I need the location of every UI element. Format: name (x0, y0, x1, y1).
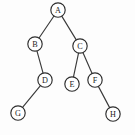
tree-node-f[interactable]: F (88, 73, 102, 87)
tree-node-d[interactable]: D (38, 73, 52, 87)
tree-node-h[interactable]: H (106, 107, 120, 121)
tree-edge-c-f (83, 53, 92, 74)
tree-node-a[interactable]: A (51, 3, 65, 17)
tree-node-circle-e (65, 77, 79, 91)
edge-layer (23, 16, 110, 108)
node-layer: ABCDEFGH (11, 3, 120, 121)
tree-edge-d-g (23, 86, 41, 108)
tree-edge-b-d (37, 51, 43, 73)
tree-node-e[interactable]: E (65, 77, 79, 91)
tree-edge-a-c (62, 16, 77, 40)
tree-node-c[interactable]: C (73, 39, 87, 53)
tree-node-circle-h (106, 107, 120, 121)
tree-node-circle-g (11, 106, 25, 120)
tree-node-circle-a (51, 3, 65, 17)
tree-edge-c-e (73, 53, 78, 77)
tree-node-circle-b (28, 37, 42, 51)
tree-node-circle-c (73, 39, 87, 53)
tree-node-circle-f (88, 73, 102, 87)
tree-edge-a-b (39, 16, 54, 38)
tree-node-b[interactable]: B (28, 37, 42, 51)
binary-tree-diagram: ABCDEFGH (0, 0, 135, 135)
tree-edge-f-h (98, 86, 109, 107)
tree-node-circle-d (38, 73, 52, 87)
tree-canvas: ABCDEFGH (0, 0, 135, 135)
tree-node-g[interactable]: G (11, 106, 25, 120)
